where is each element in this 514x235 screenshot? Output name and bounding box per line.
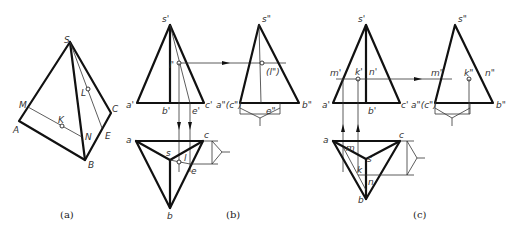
- arrow-down-icon: [188, 122, 192, 130]
- label-a-prime: a': [322, 100, 330, 110]
- panel-b-projection: s' l' a' b' e' c' s" (l") a"(c") e" b": [126, 14, 312, 221]
- side-construct: [240, 108, 260, 118]
- label-K: K: [58, 115, 65, 125]
- label-b: b: [358, 195, 364, 205]
- label-c: c: [204, 130, 209, 140]
- transfer-line: [212, 141, 222, 152]
- label-a: a: [323, 135, 329, 145]
- arrow-right-icon: [414, 77, 422, 81]
- label-n: n: [368, 177, 374, 187]
- label-m-prime: m': [330, 68, 341, 78]
- label-e: e: [191, 166, 197, 176]
- label-a: a: [126, 135, 132, 145]
- point-l-top: [177, 160, 181, 164]
- label-ac-double: a"(c"): [411, 100, 437, 110]
- label-l-prime: l': [169, 60, 174, 70]
- transfer-line: [407, 141, 417, 158]
- label-b-prime: b': [162, 106, 170, 116]
- label-E: E: [105, 131, 111, 141]
- point-L: [86, 87, 90, 91]
- label-s-double: s": [458, 14, 467, 24]
- label-l: l: [184, 153, 187, 163]
- pyramid-outline: [19, 42, 111, 160]
- side-view-triangle: [240, 25, 299, 103]
- label-ac-double: a"(c"): [216, 100, 242, 110]
- label-s-prime: s': [162, 14, 169, 24]
- label-s: s: [166, 148, 171, 158]
- edge-SB: [70, 42, 85, 160]
- label-s-prime: s': [358, 14, 365, 24]
- label-c-prime: c': [401, 100, 408, 110]
- label-c-prime: c': [205, 100, 212, 110]
- label-n-prime: n': [369, 67, 377, 77]
- label-b-double: b": [496, 100, 506, 110]
- label-A: A: [12, 125, 19, 135]
- label-b-prime: b': [368, 106, 376, 116]
- label-l-double: (l"): [266, 67, 280, 77]
- label-s: s: [367, 154, 372, 164]
- caption-c: (c): [413, 209, 427, 220]
- label-L: L: [81, 88, 86, 98]
- arrow-up-icon: [341, 124, 345, 132]
- label-M: M: [19, 100, 27, 110]
- caption-b: (b): [226, 209, 240, 220]
- label-a-prime: a': [126, 100, 134, 110]
- transfer-line: [407, 158, 417, 175]
- side-construct: [452, 108, 470, 118]
- line-MN: [28, 107, 82, 137]
- label-c: c: [399, 130, 404, 140]
- arrow-up-icon: [356, 124, 360, 132]
- label-e-prime: e': [192, 106, 200, 116]
- label-B: B: [88, 160, 94, 170]
- side-construct: [435, 108, 452, 118]
- transfer-line: [212, 152, 222, 164]
- label-k-double: k": [464, 68, 473, 78]
- arrow-right-icon: [222, 61, 230, 65]
- projection-diagram: S M A K N L C E B (a) s' l' a' b' e' c': [0, 0, 514, 235]
- label-S: S: [64, 35, 70, 45]
- label-e-double: e": [266, 106, 276, 116]
- label-k: k: [357, 165, 363, 175]
- point-l-side: [260, 61, 264, 65]
- label-n-double: n": [485, 68, 495, 78]
- label-b-double: b": [302, 100, 312, 110]
- label-N: N: [85, 132, 92, 142]
- label-C: C: [112, 104, 119, 114]
- arrow-down-icon: [177, 122, 181, 130]
- side-view-triangle: [435, 25, 493, 103]
- label-b: b: [167, 211, 173, 221]
- panel-a-pictorial-pyramid: S M A K N L C E B (a): [12, 35, 119, 220]
- label-s-double: s": [262, 14, 271, 24]
- caption-a: (a): [60, 209, 74, 220]
- panel-c-projection: s' m' k' n' a' b' c' s" m" k" n" a"(c") …: [322, 14, 506, 220]
- label-m: m: [346, 143, 355, 153]
- label-k-prime: k': [355, 67, 363, 77]
- label-m-double: m": [431, 68, 444, 78]
